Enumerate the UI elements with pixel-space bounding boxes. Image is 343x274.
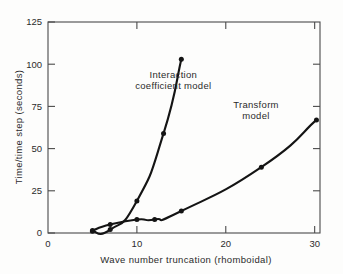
- x-axis-tick-labels: 0102030: [45, 238, 320, 249]
- y-tick-label: 50: [31, 143, 42, 154]
- chart-screenshot: 0255075100125 0102030 Time/time step (se…: [0, 0, 343, 274]
- line-chart: 0255075100125 0102030 Time/time step (se…: [0, 0, 343, 274]
- data-point: [179, 209, 184, 214]
- data-point: [90, 228, 95, 233]
- x-tick-label: 30: [309, 238, 320, 249]
- data-point: [134, 198, 139, 203]
- y-axis-title: Time/time step (seconds): [13, 70, 24, 185]
- transform-model-label-line2: model: [242, 110, 269, 121]
- series-line-1: [92, 120, 316, 231]
- series-annotation-interaction: Interaction coefficient model: [135, 69, 211, 91]
- x-axis-ticks: [137, 22, 315, 233]
- data-point: [134, 217, 139, 222]
- y-tick-label: 100: [26, 59, 42, 70]
- y-tick-label: 75: [31, 101, 42, 112]
- interaction-model-label-line2: coefficient model: [135, 80, 211, 91]
- y-tick-label: 25: [31, 185, 42, 196]
- data-point: [152, 217, 157, 222]
- data-point: [108, 222, 113, 227]
- x-tick-label: 20: [220, 238, 231, 249]
- y-tick-label: 0: [37, 227, 42, 238]
- y-tick-label: 125: [26, 16, 42, 27]
- x-tick-label: 10: [132, 238, 143, 249]
- data-point: [259, 165, 264, 170]
- series-annotation-transform: Transform model: [233, 99, 279, 121]
- data-point: [314, 117, 319, 122]
- data-point: [108, 227, 113, 232]
- interaction-model-label-line1: Interaction: [149, 69, 197, 80]
- plot-frame: [48, 22, 320, 233]
- transform-model-label-line1: Transform: [233, 99, 279, 110]
- y-axis-ticks: [48, 22, 320, 233]
- x-axis-title: Wave number truncation (rhomboidal): [100, 254, 271, 265]
- y-axis-tick-labels: 0255075100125: [26, 16, 42, 238]
- data-point: [179, 57, 184, 62]
- data-point: [161, 131, 166, 136]
- x-tick-label: 0: [45, 238, 50, 249]
